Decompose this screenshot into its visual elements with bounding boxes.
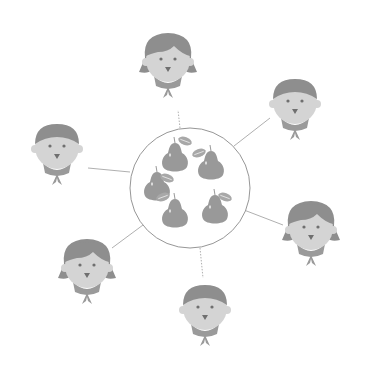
eye-icon [62,144,65,147]
connector-right [244,210,283,225]
eye-icon [302,225,305,228]
illustration-svg [0,0,381,380]
eye-icon [316,225,319,228]
eye-icon [48,144,51,147]
connector-bottom [200,248,203,278]
person-right [282,201,340,266]
eye-icon [92,263,95,266]
person-bottom [179,285,231,346]
connector-top-right [234,118,270,146]
person-top [139,33,197,98]
eye-icon [173,57,176,60]
connector-left [88,168,130,172]
eye-icon [78,263,81,266]
eye-icon [286,99,289,102]
connector-top [178,110,180,128]
eye-icon [210,305,213,308]
person-bottom-left [58,239,116,304]
eye-icon [159,57,162,60]
person-top-right [269,79,321,140]
illustration-canvas [0,0,381,380]
eye-icon [300,99,303,102]
person-left [31,124,83,185]
eye-icon [196,305,199,308]
connector-bottom-left [112,225,143,248]
